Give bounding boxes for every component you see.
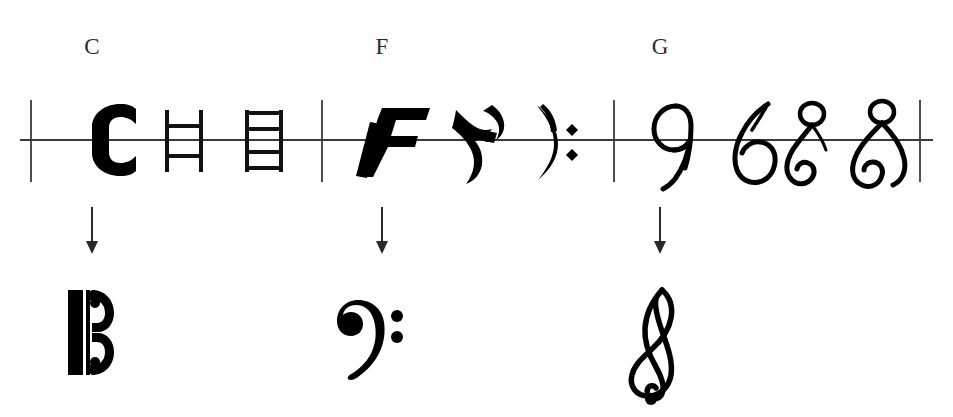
group-label-c: C xyxy=(84,34,99,59)
bass-clef-lower-dot xyxy=(391,331,403,343)
group-label-g: G xyxy=(652,34,669,59)
alto-clef-thick-bar xyxy=(68,290,83,375)
clef-evolution-figure: C F G xyxy=(0,0,953,417)
group-label-f: F xyxy=(376,34,389,59)
figure-canvas: C F G xyxy=(0,0,953,417)
alto-clef-upper-dot xyxy=(90,298,100,308)
alto-clef-thin-bar xyxy=(86,290,90,375)
background xyxy=(0,0,953,417)
treble-clef-terminal-dot xyxy=(645,393,657,405)
bass-clef-upper-dot xyxy=(391,310,403,322)
alto-clef-lower-dot xyxy=(90,357,100,367)
